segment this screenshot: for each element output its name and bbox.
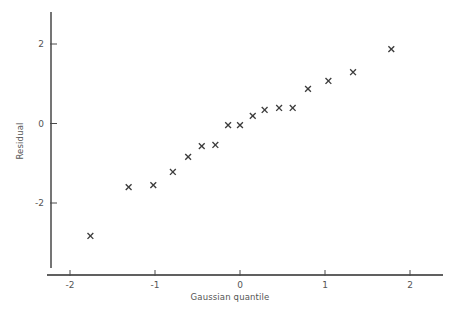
axes-group bbox=[47, 12, 443, 275]
data-point-marker bbox=[126, 184, 132, 190]
data-point-marker bbox=[88, 233, 94, 239]
data-point-marker bbox=[185, 154, 191, 160]
data-point-marker bbox=[350, 69, 356, 75]
ticks-group: -2-1012-202 bbox=[35, 39, 413, 290]
data-point-marker bbox=[150, 182, 156, 188]
x-tick-label: 1 bbox=[322, 280, 328, 290]
y-tick-label: 0 bbox=[38, 119, 44, 129]
data-point-marker bbox=[290, 105, 296, 111]
data-point-marker bbox=[237, 122, 243, 128]
y-tick-label: 2 bbox=[38, 39, 44, 49]
y-tick-label: -2 bbox=[35, 198, 44, 208]
y-axis-title: Residual bbox=[15, 91, 25, 191]
x-axis-title: Gaussian quantile bbox=[0, 292, 460, 302]
data-point-marker bbox=[262, 107, 268, 113]
data-points-group bbox=[88, 46, 395, 239]
data-point-marker bbox=[326, 78, 332, 84]
data-point-marker bbox=[250, 113, 256, 119]
data-point-marker bbox=[225, 122, 231, 128]
qq-plot-figure: -2-1012-202 Gaussian quantile Residual bbox=[0, 0, 460, 316]
data-point-marker bbox=[276, 105, 282, 111]
x-tick-label: -1 bbox=[151, 280, 160, 290]
data-point-marker bbox=[305, 86, 311, 92]
data-point-marker bbox=[388, 46, 394, 52]
x-tick-label: 0 bbox=[237, 280, 243, 290]
data-point-marker bbox=[199, 143, 205, 149]
x-tick-label: 2 bbox=[407, 280, 413, 290]
plot-canvas: -2-1012-202 bbox=[0, 0, 460, 316]
x-tick-label: -2 bbox=[66, 280, 75, 290]
data-point-marker bbox=[212, 142, 218, 148]
data-point-marker bbox=[170, 169, 176, 175]
